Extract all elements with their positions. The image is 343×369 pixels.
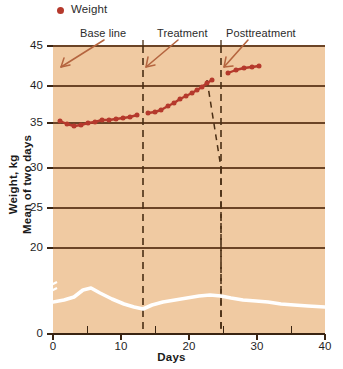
chart-legend: Weight xyxy=(57,3,107,17)
y-axis-title: Weight, kg Mean of two days xyxy=(6,104,35,264)
legend-label: Weight xyxy=(71,4,107,16)
y-tick-label-0: 0 xyxy=(17,328,43,340)
y-tick-label-45: 45 xyxy=(17,40,43,52)
x-tick-label-30: 30 xyxy=(246,341,268,353)
annotation-label-treatment: Treatment xyxy=(157,28,208,39)
x-tick-label-10: 10 xyxy=(110,341,132,353)
y-axis-title-line1: Weight, kg xyxy=(6,104,20,264)
x-axis-title: Days xyxy=(0,352,343,364)
weight-chart-canvas xyxy=(0,0,343,369)
annotation-label-posttreatment: Posttreatment xyxy=(226,28,296,39)
annotation-label-base-line: Base line xyxy=(80,28,126,39)
y-axis-title-line2: Mean of two days xyxy=(20,104,34,264)
y-tick-label-40: 40 xyxy=(17,80,43,92)
legend-marker-icon xyxy=(57,7,64,14)
x-tick-label-0: 0 xyxy=(42,341,64,353)
x-tick-label-40: 40 xyxy=(314,341,336,353)
